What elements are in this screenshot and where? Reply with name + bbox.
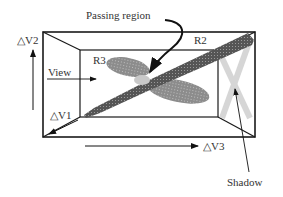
passing-region-arrow (150, 20, 182, 72)
r3-label: R3 (93, 54, 106, 66)
view-label: View (48, 66, 71, 78)
shadow-label: Shadow (227, 176, 263, 188)
passing-region-label: Passing region (86, 9, 151, 21)
edge-bottom-right (218, 117, 255, 137)
dv1-arrow (49, 120, 78, 134)
r2-label: R2 (194, 34, 207, 46)
dv1-label: △V1 (50, 109, 71, 121)
dv3-label: △V3 (203, 140, 225, 152)
3d-scatter-diagram: Passing region R2 R3 View △V2 △V1 △V3 Sh… (0, 0, 283, 197)
edge-top-left (43, 32, 80, 50)
dv2-label: △V2 (17, 34, 38, 46)
passing-region-blob (134, 75, 150, 85)
